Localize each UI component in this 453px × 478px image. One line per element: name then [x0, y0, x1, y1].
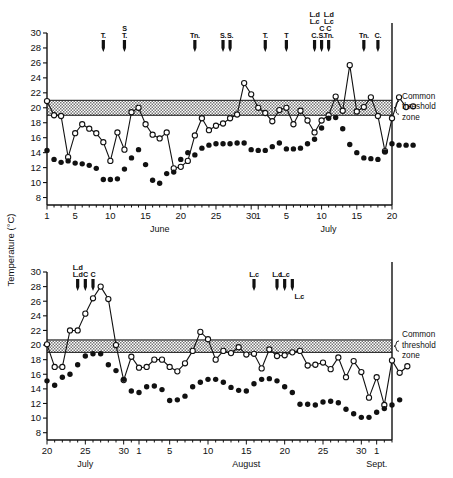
- event-arrow: [313, 40, 316, 52]
- data-point-open: [83, 311, 88, 316]
- figure-root: 8101214161820222426283015101520253015101…: [0, 0, 453, 478]
- y-tick-label: 22: [30, 325, 41, 336]
- data-point-open: [389, 358, 394, 363]
- data-point-filled: [277, 140, 282, 145]
- threshold-zone-brace: [394, 101, 399, 114]
- x-tick-label: 20: [279, 445, 290, 456]
- data-point-open: [396, 95, 401, 100]
- data-point-open: [389, 116, 394, 121]
- data-point-filled: [192, 152, 197, 157]
- event-label: L.c: [295, 292, 305, 301]
- data-point-open: [340, 108, 345, 113]
- data-point-open: [51, 113, 56, 118]
- x-tick-label: 1: [44, 210, 49, 221]
- month-label: Sept.: [366, 459, 387, 469]
- data-point-open: [178, 164, 183, 169]
- temperature-time-series-figure: 8101214161820222426283015101520253015101…: [0, 0, 453, 478]
- data-point-open: [251, 351, 256, 356]
- data-point-open: [136, 105, 141, 110]
- data-point-filled: [106, 362, 111, 367]
- data-point-filled: [136, 390, 141, 395]
- data-point-filled: [312, 136, 317, 141]
- event-label: T.: [101, 31, 106, 40]
- data-point-filled: [397, 397, 402, 402]
- x-tick-label: 30: [118, 445, 129, 456]
- data-point-filled: [382, 149, 387, 154]
- y-tick-label: 10: [30, 412, 41, 423]
- data-point-open: [359, 369, 364, 374]
- y-tick-label: 30: [30, 27, 41, 38]
- data-point-filled: [328, 399, 333, 404]
- data-point-filled: [227, 141, 232, 146]
- data-point-open: [113, 342, 118, 347]
- data-point-open: [290, 350, 295, 355]
- data-point-filled: [122, 166, 127, 171]
- data-point-open: [249, 92, 254, 97]
- data-point-filled: [44, 148, 49, 153]
- event-arrow: [252, 279, 255, 291]
- data-point-open: [182, 361, 187, 366]
- x-tick-label: 1: [136, 445, 141, 456]
- y-tick-label: 16: [30, 369, 41, 380]
- y-tick-label: 12: [30, 162, 41, 173]
- data-point-open: [368, 95, 373, 100]
- arrow-shape: [285, 40, 288, 52]
- data-point-filled: [333, 115, 338, 120]
- data-point-filled: [259, 377, 264, 382]
- data-point-filled: [171, 169, 176, 174]
- arrow-shape: [252, 279, 255, 291]
- data-point-open: [44, 342, 49, 347]
- data-point-filled: [136, 147, 141, 152]
- arrow-shape: [275, 279, 278, 291]
- y-tick-label: 26: [30, 296, 41, 307]
- x-tick-label: 5: [167, 445, 172, 456]
- y-tick-label: 30: [30, 266, 41, 277]
- x-tick-label: 20: [175, 210, 186, 221]
- data-point-open: [67, 328, 72, 333]
- y-tick-label: 28: [30, 42, 41, 53]
- data-point-filled: [129, 155, 134, 160]
- data-point-open: [256, 105, 261, 110]
- data-point-filled: [359, 415, 364, 420]
- data-point-filled: [58, 160, 63, 165]
- data-point-filled: [157, 181, 162, 186]
- data-point-filled: [375, 157, 380, 162]
- y-tick-label: 8: [36, 427, 41, 438]
- data-point-open: [87, 126, 92, 131]
- y-tick-label: 16: [30, 132, 41, 143]
- event-arrow: [84, 279, 87, 291]
- data-point-filled: [248, 147, 253, 152]
- x-tick-label: 30: [356, 445, 367, 456]
- data-point-open: [199, 116, 204, 121]
- x-tick-label: 20: [42, 445, 53, 456]
- data-point-filled: [199, 145, 204, 150]
- data-point-open: [58, 113, 63, 118]
- data-point-filled: [326, 116, 331, 121]
- event-arrow: [76, 279, 79, 291]
- data-point-open: [73, 131, 78, 136]
- event-label: L.d: [73, 270, 83, 279]
- data-point-filled: [313, 402, 318, 407]
- event-label: T: [284, 31, 289, 40]
- x-tick-label: 5: [284, 210, 289, 221]
- month-label: August: [232, 459, 261, 469]
- x-tick-label: 15: [140, 210, 151, 221]
- data-point-open: [328, 367, 333, 372]
- event-label: L.c: [249, 270, 259, 279]
- data-point-filled: [244, 388, 249, 393]
- data-point-filled: [297, 402, 302, 407]
- data-point-filled: [282, 384, 287, 389]
- data-point-open: [242, 81, 247, 86]
- y-tick-label: 20: [30, 339, 41, 350]
- data-point-filled: [65, 158, 70, 163]
- data-point-open: [274, 353, 279, 358]
- data-point-open: [205, 337, 210, 342]
- threshold-zone-brace: [394, 341, 399, 351]
- data-point-open: [167, 364, 172, 369]
- data-point-filled: [361, 155, 366, 160]
- data-point-filled: [351, 411, 356, 416]
- event-arrow: [291, 279, 294, 291]
- data-point-open: [220, 121, 225, 126]
- data-point-filled: [336, 400, 341, 405]
- data-point-open: [228, 350, 233, 355]
